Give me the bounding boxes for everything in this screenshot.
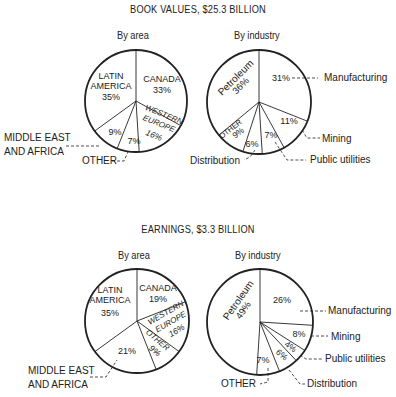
label-other: OTHER: [221, 378, 256, 389]
label-distribution: Distribution: [190, 155, 240, 166]
leader-line: [302, 130, 320, 138]
value-latin-america: 35%: [101, 308, 119, 318]
label-public-utilities: Public utilities: [325, 353, 386, 364]
pie-charts: LATINAMERICA35%CANADA33%WESTERNEUROPE16%…: [0, 0, 396, 397]
label-middle-east-africa: MIDDLE EAST: [4, 132, 71, 143]
label-canada: CANADA: [143, 74, 181, 84]
label-public-utilities: Public utilities: [310, 154, 371, 165]
value-manufacturing: 31%: [272, 73, 290, 83]
leader-line: [300, 355, 322, 359]
value-canada: 19%: [149, 294, 167, 304]
label-manufacturing: Manufacturing: [328, 305, 391, 316]
value-canada: 33%: [153, 85, 171, 95]
label-latin-america: LATIN: [99, 71, 124, 81]
label-latin-america: AMERICA: [89, 295, 130, 305]
slice-labels: LATINAMERICA35%CANADA33%WESTERNEUROPE16%…: [4, 58, 391, 390]
label-distribution: Distribution: [307, 378, 357, 389]
value-middle-east-africa: 9%: [108, 127, 121, 137]
label-mining: Mining: [322, 133, 351, 144]
label-manufacturing: Manufacturing: [324, 72, 387, 83]
label-mining: Mining: [331, 331, 360, 342]
value-mining: 8%: [292, 329, 305, 339]
value-latin-america: 35%: [102, 92, 120, 102]
label-other: OTHER: [82, 155, 117, 166]
label-middle-east-africa: AND AFRICA: [4, 146, 64, 157]
value-public-utilities: 7%: [264, 130, 277, 140]
label-latin-america: LATIN: [98, 285, 123, 295]
label-middle-east-africa: MIDDLE EAST: [28, 365, 95, 376]
leader-line: [289, 370, 305, 384]
value-mining: 11%: [280, 116, 297, 126]
cropped-caption: [0, 391, 396, 397]
label-middle-east-africa: AND AFRICA: [28, 379, 88, 390]
label-latin-america: AMERICA: [90, 81, 131, 91]
value-other: 7%: [127, 136, 140, 146]
value-other: 7%: [256, 355, 269, 365]
value-distribution: 6%: [245, 139, 258, 149]
value-manufacturing: 26%: [273, 295, 291, 305]
label-canada: CANADA: [139, 283, 177, 293]
value-middle-east-africa: 21%: [118, 346, 136, 356]
